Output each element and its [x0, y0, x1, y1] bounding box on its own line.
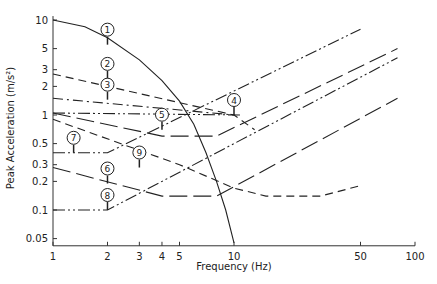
series-marker-9: 9 — [133, 146, 146, 168]
chart: 1234510501000.050.10.20.30.5123510 12345… — [0, 0, 437, 284]
svg-text:7: 7 — [71, 133, 77, 143]
y-tick-label: 10 — [35, 15, 48, 26]
x-tick-label: 1 — [50, 251, 56, 262]
x-tick-label: 4 — [159, 251, 165, 262]
y-tick-label: 5 — [42, 43, 48, 54]
y-tick-label: 2 — [42, 81, 48, 92]
x-axis-label: Frequency (Hz) — [196, 261, 272, 272]
y-tick-label: 3 — [42, 64, 48, 75]
svg-text:1: 1 — [105, 25, 111, 35]
x-tick-label: 3 — [136, 251, 142, 262]
svg-text:9: 9 — [136, 148, 142, 158]
y-tick-label: 0.5 — [32, 138, 48, 149]
x-tick-label: 100 — [405, 251, 424, 262]
series-marker-5: 5 — [155, 108, 168, 130]
svg-text:5: 5 — [159, 110, 165, 120]
axes: 1234510501000.050.10.20.30.5123510 — [26, 15, 425, 262]
series-marker-2: 2 — [101, 57, 114, 78]
y-axis-label: Peak Acceleration (m/s²) — [5, 67, 16, 189]
x-tick-label: 5 — [176, 251, 182, 262]
series-marker-3: 3 — [101, 78, 114, 100]
series-marker-8: 8 — [101, 189, 114, 211]
series-line-7 — [53, 29, 361, 153]
svg-text:8: 8 — [105, 191, 111, 201]
svg-text:2: 2 — [105, 59, 111, 69]
series-marker-4: 4 — [228, 94, 241, 116]
y-tick-label: 1 — [42, 110, 48, 121]
y-tick-label: 0.05 — [26, 233, 48, 244]
series-lines — [53, 20, 398, 243]
series-markers: 123456789 — [67, 23, 240, 210]
series-line-2 — [53, 74, 255, 130]
series-line-3 — [53, 98, 234, 115]
svg-text:3: 3 — [105, 80, 111, 90]
series-marker-7: 7 — [67, 131, 80, 153]
y-tick-label: 0.2 — [32, 176, 48, 187]
x-tick-label: 50 — [354, 251, 367, 262]
y-tick-label: 0.1 — [32, 205, 48, 216]
svg-text:6: 6 — [105, 164, 111, 174]
y-tick-label: 0.3 — [32, 159, 48, 170]
x-tick-label: 2 — [104, 251, 110, 262]
svg-text:4: 4 — [231, 96, 237, 106]
